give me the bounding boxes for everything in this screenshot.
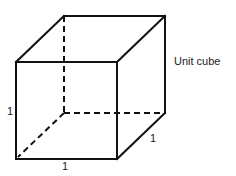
- title-label: Unit cube: [174, 56, 220, 67]
- unit-cube-diagram: [0, 0, 236, 176]
- width-label: 1: [62, 161, 68, 172]
- edge-diag-top-right: [117, 16, 165, 62]
- edge-hidden-diag-bottom-left: [18, 113, 64, 157]
- edge-diag-top-left: [16, 16, 64, 62]
- depth-label: 1: [150, 133, 156, 144]
- height-label: 1: [7, 106, 13, 117]
- edge-diag-bottom-right: [117, 113, 165, 159]
